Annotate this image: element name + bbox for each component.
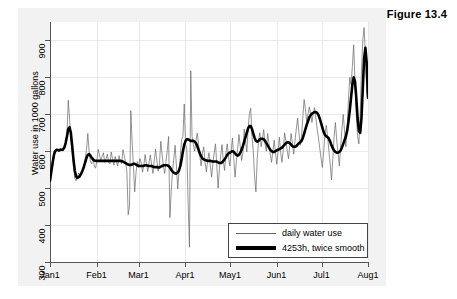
- x-axis-tick-label: May1: [219, 270, 241, 280]
- x-axis-tick: [322, 262, 323, 267]
- chart-legend: daily water use 4253h, twice smooth: [228, 223, 368, 258]
- x-axis-tick-label: Feb1: [86, 270, 107, 280]
- legend-label: daily water use: [278, 228, 342, 238]
- x-axis-tick-label: Jun1: [267, 270, 287, 280]
- smoothed-series-line: [50, 48, 368, 181]
- daily-series-line: [50, 28, 368, 248]
- x-axis-tick: [277, 262, 278, 267]
- x-axis-tick: [368, 262, 369, 267]
- x-axis-tick: [97, 262, 98, 267]
- y-axis-tick-label: 400: [37, 224, 47, 248]
- legend-item-smooth: 4253h, twice smooth: [234, 241, 362, 256]
- legend-item-daily-water-use: daily water use: [234, 226, 362, 241]
- x-axis-tick-label: Jan1: [40, 270, 60, 280]
- x-axis-tick: [50, 262, 51, 267]
- x-axis-tick: [230, 262, 231, 267]
- figure-caption: Figure 13.4: [387, 8, 447, 20]
- x-axis-tick-label: Mar1: [128, 270, 149, 280]
- y-axis-tick-label: 900: [37, 39, 47, 63]
- y-axis-tick-label: 800: [37, 76, 47, 100]
- x-axis-tick-label: Jul1: [313, 270, 330, 280]
- y-axis-tick-label: 600: [37, 150, 47, 174]
- x-axis-tick-label: Apr1: [175, 270, 194, 280]
- figure-container: Figure 13.4 Water use in 1000 gallons 30…: [0, 0, 457, 299]
- gridline-vertical: [368, 22, 369, 262]
- y-axis-tick-label: 500: [37, 187, 47, 211]
- thick-line-key-icon: [234, 246, 278, 250]
- x-axis-tick: [139, 262, 140, 267]
- thin-line-key-icon: [234, 233, 278, 234]
- legend-label: 4253h, twice smooth: [278, 243, 365, 253]
- y-axis-tick-label: 700: [37, 113, 47, 137]
- x-axis-tick-label: Aug1: [357, 270, 378, 280]
- x-axis-tick: [185, 262, 186, 267]
